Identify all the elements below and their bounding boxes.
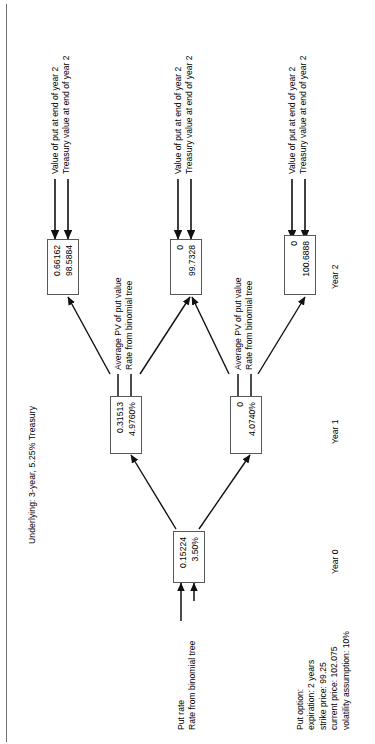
node-box-year2-mid[interactable]: 0 99.7328 [170, 239, 202, 295]
year1-upper-callout-labels: Average PV of put value Rate from binomi… [113, 277, 136, 370]
node-year1-lower-rate: 4.0740% [246, 402, 258, 448]
year2-mid-callout-line-1: Value of put at end of year 2 [173, 55, 184, 174]
year2-mid-callout-labels: Value of put at end of year 2 Treasury v… [173, 55, 196, 174]
year2-bottom-callout-line-2: Treasury value at end of year 2 [298, 55, 309, 174]
arrow-group-year2-mid-callout [178, 179, 191, 239]
year-axis-label-1: Year 1 [330, 419, 340, 444]
rotated-figure-wrapper: Put option: expiration: 2 years strike p… [0, 0, 375, 744]
node-year0-rate: 3.50% [189, 537, 201, 577]
option-details-line-5: volatility assumption: 10% [341, 631, 352, 730]
node-box-year2-bottom[interactable]: 0 100.6888 [284, 235, 316, 295]
year2-mid-callout-line-2: Treasury value at end of year 2 [184, 55, 195, 174]
arrow-year1-lower-to-year2-mid [192, 297, 229, 374]
arrow-year1-lower-to-year2-bottom [258, 297, 305, 374]
year2-top-callout-line-2: Treasury value at end of year 2 [61, 55, 72, 174]
top-divider-rule [6, 4, 7, 742]
option-details-line-1: Put option: [295, 631, 306, 730]
arrow-group-year2-top-callout [55, 179, 68, 239]
year2-top-callout-labels: Value of put at end of year 2 Treasury v… [50, 55, 73, 174]
node-year2-bottom-put-value: 0 [288, 241, 300, 289]
node-year1-upper-rate: 4.9760% [126, 402, 138, 448]
underlying-note: Underlying: 3-year, 5.25% Treasury [27, 406, 38, 544]
node-box-year1-upper[interactable]: 0.31513 4.9760% [110, 396, 142, 454]
year1-lower-callout-line-2: Rate from binomial tree [244, 277, 255, 370]
option-details-line-4: current price: 102.075 [329, 631, 340, 730]
node-box-year1-lower[interactable]: 0 4.0740% [230, 396, 262, 454]
node-year1-lower-put-value: 0 [234, 402, 246, 448]
year-axis-label-2: Year 2 [330, 264, 340, 289]
node-year2-mid-put-value: 0 [174, 245, 186, 289]
arrow-root-to-year1-lower [199, 455, 250, 529]
option-details-line-3: strike price: 99.25 [318, 631, 329, 730]
node-year2-mid-treasury-value: 99.7328 [186, 245, 198, 289]
arrow-year1-upper-to-year2-mid [140, 297, 190, 374]
node-year1-upper-put-value: 0.31513 [114, 402, 126, 448]
arrow-root-to-year1-upper [131, 455, 176, 529]
node-year0-put-value: 0.15224 [177, 537, 189, 577]
node-year2-top-put-value: 0.66162 [51, 245, 63, 289]
year2-top-callout-line-1: Value of put at end of year 2 [50, 55, 61, 174]
year1-lower-callout-labels: Average PV of put value Rate from binomi… [233, 277, 256, 370]
root-callout-line-2: Rate from binomial tree [187, 641, 198, 730]
year1-lower-callout-line-1: Average PV of put value [233, 277, 244, 370]
year2-bottom-callout-labels: Value of put at end of year 2 Treasury v… [287, 55, 310, 174]
node-box-year0[interactable]: 0.15224 3.50% [173, 531, 205, 583]
year-axis-label-0: Year 0 [330, 549, 340, 574]
option-details-block: Put option: expiration: 2 years strike p… [295, 631, 352, 730]
arrow-year1-upper-to-year2-top [68, 297, 110, 374]
node-box-year2-top[interactable]: 0.66162 98.5884 [47, 239, 79, 295]
node-year2-bottom-treasury-value: 100.6888 [300, 241, 312, 289]
arrow-group-root-callout [181, 583, 194, 621]
node-year2-top-treasury-value: 98.5884 [63, 245, 75, 289]
root-callout-line-1: Put rate [176, 641, 187, 730]
option-details-line-2: expiration: 2 years [306, 631, 317, 730]
root-callout-labels: Put rate Rate from binomial tree [176, 641, 199, 730]
year1-upper-callout-line-1: Average PV of put value [113, 277, 124, 370]
arrow-group-year2-bottom-callout [292, 179, 305, 239]
year1-upper-callout-line-2: Rate from binomial tree [124, 277, 135, 370]
year2-bottom-callout-line-1: Value of put at end of year 2 [287, 55, 298, 174]
binomial-tree-figure: Put option: expiration: 2 years strike p… [0, 0, 375, 744]
